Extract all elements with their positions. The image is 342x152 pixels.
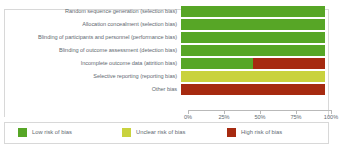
axis-tick-label: 75% [285, 113, 307, 121]
legend-swatch-high-icon [227, 128, 236, 137]
axis-tick-label: 25% [213, 113, 235, 121]
row-label: Incomplete outcome data (attrition bias) [0, 60, 181, 67]
axis-tick-label: 0% [177, 113, 199, 121]
axis-tick-label: 50% [249, 113, 271, 121]
stacked-bar [181, 19, 325, 30]
legend-item-low-risk: Low risk of bias [18, 128, 72, 137]
axis-tick-label: 100% [320, 113, 342, 121]
stacked-bar [181, 58, 325, 69]
legend-label: High risk of bias [241, 128, 282, 137]
stacked-bar [181, 84, 325, 95]
row-label: Blinding of outcome assessment (detectio… [0, 47, 181, 54]
legend-label: Low risk of bias [32, 128, 72, 137]
table-row: Incomplete outcome data (attrition bias) [0, 58, 333, 69]
bar-segment-low [181, 58, 253, 69]
bar-rows: Random sequence generation (selection bi… [0, 0, 333, 96]
legend-swatch-unclear-icon [122, 128, 131, 137]
bar-segment-low [181, 45, 325, 56]
stacked-bar [181, 45, 325, 56]
bar-segment-low [181, 32, 325, 43]
table-row: Other bias [0, 84, 333, 95]
bar-segment-high [253, 58, 325, 69]
stacked-bar [181, 71, 325, 82]
stacked-bar [181, 6, 325, 17]
legend-item-high-risk: High risk of bias [227, 128, 282, 137]
row-label: Other bias [0, 86, 181, 93]
table-row: Blinding of participants and personnel (… [0, 32, 333, 43]
bar-segment-low [181, 19, 325, 30]
bar-segment-low [181, 6, 325, 17]
row-label: Selective reporting (reporting bias) [0, 73, 181, 80]
chart-legend: Low risk of bias Unclear risk of bias Hi… [4, 122, 329, 144]
legend-label: Unclear risk of bias [136, 128, 185, 137]
stacked-bar [181, 32, 325, 43]
row-label: Blinding of participants and personnel (… [0, 34, 181, 41]
table-row: Random sequence generation (selection bi… [0, 6, 333, 17]
bar-segment-high [181, 84, 325, 95]
table-row: Allocation concealment (selection bias) [0, 19, 333, 30]
row-label: Random sequence generation (selection bi… [0, 8, 181, 15]
legend-swatch-low-icon [18, 128, 27, 137]
row-label: Allocation concealment (selection bias) [0, 21, 181, 28]
table-row: Blinding of outcome assessment (detectio… [0, 45, 333, 56]
table-row: Selective reporting (reporting bias) [0, 71, 333, 82]
bar-segment-unclear [181, 71, 325, 82]
legend-item-unclear-risk: Unclear risk of bias [122, 128, 185, 137]
